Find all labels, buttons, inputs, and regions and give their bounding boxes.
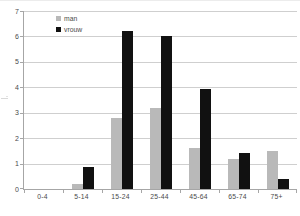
- y-tick-7: [20, 11, 24, 12]
- y-axis-label-4: 4: [3, 84, 19, 91]
- x-axis-label-75+: 75+: [257, 193, 296, 201]
- x-axis-label-5-14: 5-14: [62, 193, 101, 201]
- bar-vrouw-75+: [278, 179, 289, 189]
- y-axis-label-6: 6: [3, 33, 19, 40]
- x-axis-label-0-4: 0-4: [23, 193, 62, 201]
- x-tick-7: [296, 189, 297, 193]
- bar-man-75+: [267, 151, 278, 189]
- y-axis-label-1: 1: [3, 160, 19, 167]
- y-tick-6: [20, 36, 24, 37]
- plot-area: [23, 11, 297, 190]
- gridline-y7: [24, 11, 297, 12]
- bar-man-65-74: [228, 159, 239, 190]
- bar-vrouw-65-74: [239, 153, 250, 189]
- x-axis-label-25-44: 25-44: [140, 193, 179, 201]
- legend-label-vrouw: vrouw: [64, 26, 82, 33]
- legend-item-vrouw: vrouw: [56, 25, 82, 34]
- y-axis-label-7: 7: [3, 8, 19, 15]
- bar-man-45-64: [189, 148, 200, 189]
- scan-artifact: [1, 98, 8, 99]
- bar-man-25-44: [150, 108, 161, 189]
- bar-vrouw-25-44: [161, 36, 172, 189]
- x-axis-labels: 0-45-1415-2425-4445-6465-7475+: [23, 193, 296, 205]
- y-tick-4: [20, 87, 24, 88]
- y-tick-2: [20, 138, 24, 139]
- legend-swatch-man-icon: [56, 16, 61, 21]
- x-axis-label-65-74: 65-74: [218, 193, 257, 201]
- legend-label-man: man: [64, 15, 77, 22]
- y-axis-label-3: 3: [3, 109, 19, 116]
- bar-vrouw-45-64: [200, 89, 211, 189]
- legend-swatch-vrouw-icon: [56, 27, 61, 32]
- legend: man vrouw: [56, 14, 82, 36]
- y-tick-5: [20, 62, 24, 63]
- bar-man-15-24: [111, 118, 122, 189]
- bar-vrouw-5-14: [83, 167, 94, 189]
- y-axis-label-0: 0: [3, 186, 19, 193]
- bar-vrouw-15-24: [122, 31, 133, 189]
- x-axis-label-45-64: 45-64: [179, 193, 218, 201]
- legend-item-man: man: [56, 14, 82, 23]
- bar-man-5-14: [72, 184, 83, 189]
- y-axis-label-2: 2: [3, 135, 19, 142]
- y-axis-label-5: 5: [3, 58, 19, 65]
- y-tick-1: [20, 164, 24, 165]
- y-tick-3: [20, 113, 24, 114]
- bar-chart: 01234567 0-45-1415-2425-4445-6465-7475+ …: [0, 0, 300, 216]
- x-axis-label-15-24: 15-24: [101, 193, 140, 201]
